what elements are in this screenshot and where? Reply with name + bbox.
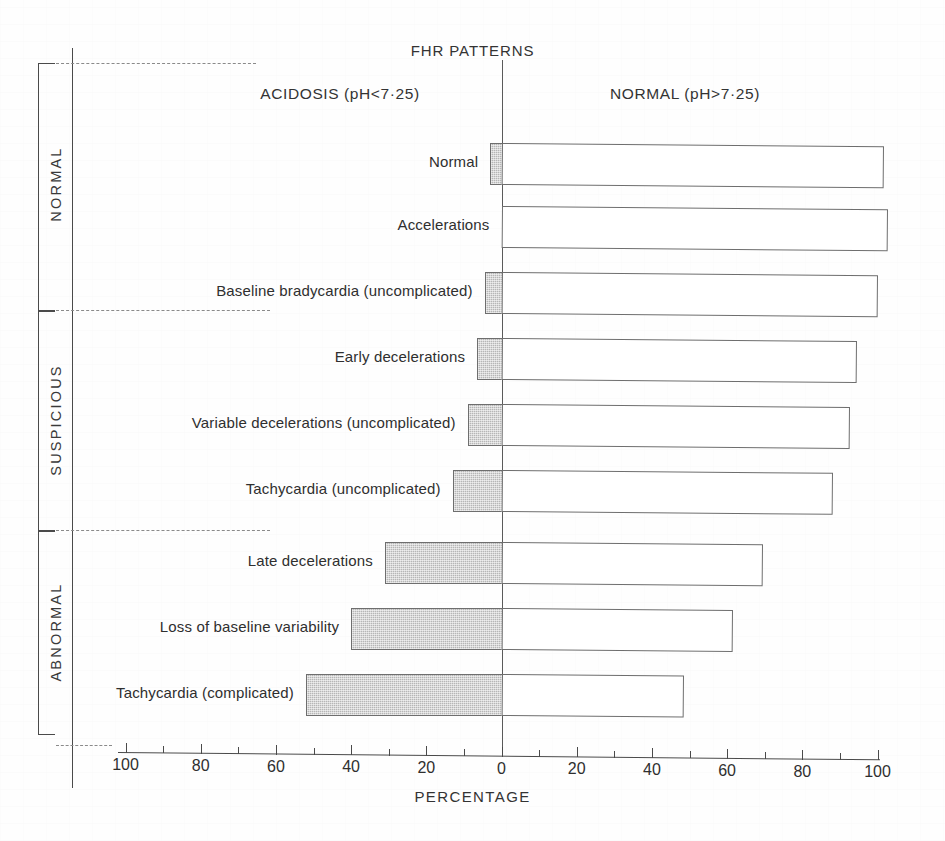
bar-normal	[501, 206, 887, 251]
x-axis-minor-tick	[840, 753, 841, 760]
x-axis-tick-label: 80	[179, 757, 223, 775]
x-axis-title: PERCENTAGE	[0, 788, 945, 805]
x-axis-tick-label: 20	[555, 760, 599, 778]
x-axis-minor-tick	[614, 751, 615, 758]
bar-normal	[501, 404, 849, 449]
x-axis-minor-tick	[539, 750, 540, 757]
bar-acidosis	[453, 470, 504, 512]
x-axis-minor-tick	[389, 749, 390, 756]
bar-acidosis	[306, 674, 504, 716]
x-axis-tick-label: 20	[404, 759, 448, 777]
bar-normal	[501, 470, 832, 515]
x-axis-tick	[502, 747, 503, 757]
bar-row	[0, 206, 945, 246]
bar-normal	[501, 338, 857, 383]
bar-acidosis	[485, 272, 504, 314]
bar-acidosis	[385, 542, 504, 584]
bar-normal	[501, 674, 684, 718]
bar-row	[0, 542, 945, 582]
x-axis-tick	[126, 743, 127, 753]
bar-acidosis	[477, 338, 503, 380]
bar-row	[0, 404, 945, 444]
x-axis-minor-tick	[690, 751, 691, 758]
fhr-patterns-chart: FHR PATTERNS ACIDOSIS (pH<7·25) NORMAL (…	[0, 0, 945, 841]
x-axis-tick-label: 40	[630, 761, 674, 779]
bar-row	[0, 143, 945, 183]
bar-row	[0, 608, 945, 648]
x-axis-tick-label: 0	[480, 760, 524, 778]
x-axis-minor-tick	[163, 746, 164, 753]
x-axis-tick	[727, 749, 728, 759]
x-axis-tick	[276, 745, 277, 755]
bar-normal	[501, 542, 763, 586]
x-axis-minor-tick	[314, 748, 315, 755]
x-axis-tick	[201, 744, 202, 754]
x-axis-tick-label: 100	[104, 756, 148, 774]
x-axis-tick-label: 80	[780, 763, 824, 781]
x-axis-tick-label: 60	[254, 758, 298, 776]
x-axis-tick-label: 100	[856, 763, 900, 781]
bar-row	[0, 470, 945, 510]
bar-acidosis	[468, 404, 504, 446]
x-axis-tick	[351, 745, 352, 755]
x-axis-tick-label: 40	[329, 758, 373, 776]
bar-acidosis	[351, 608, 503, 650]
plot-area: NormalAccelerationsBaseline bradycardia …	[0, 0, 945, 841]
x-axis-minor-tick	[765, 752, 766, 759]
x-axis-minor-tick	[238, 747, 239, 754]
x-axis-tick	[652, 748, 653, 758]
bar-row	[0, 674, 945, 714]
x-axis-tick-label: 60	[705, 762, 749, 780]
bar-normal	[501, 272, 877, 317]
x-axis-tick	[802, 750, 803, 760]
x-axis-minor-tick	[464, 749, 465, 756]
x-axis-tick	[577, 747, 578, 757]
x-axis-tick	[426, 746, 427, 756]
bar-row	[0, 338, 945, 378]
x-axis-tick	[878, 750, 879, 760]
bar-row	[0, 272, 945, 312]
bar-normal	[501, 608, 733, 652]
bar-normal	[501, 143, 883, 188]
